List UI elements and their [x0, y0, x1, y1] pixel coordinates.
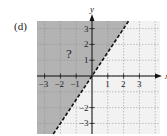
x-tick-label: 1: [105, 79, 110, 89]
y-tick-label: 1: [84, 55, 89, 65]
x-tick-label: −1: [70, 79, 80, 89]
inequality-graph: xy−3−2−1123321−2−3?: [0, 0, 167, 136]
x-tick-label: −3: [39, 79, 49, 89]
x-axis-label: x: [164, 71, 167, 81]
question-mark-annotation: ?: [66, 46, 72, 61]
x-tick-label: −2: [54, 79, 64, 89]
y-tick-label: 2: [84, 39, 89, 49]
y-tick-label: −2: [79, 103, 89, 113]
y-axis-arrow-icon: [90, 14, 95, 21]
y-tick-label: −3: [79, 118, 89, 128]
y-axis-label: y: [89, 4, 94, 14]
x-tick-label: 3: [137, 79, 142, 89]
x-tick-label: 2: [121, 79, 126, 89]
y-tick-label: 3: [84, 24, 89, 34]
